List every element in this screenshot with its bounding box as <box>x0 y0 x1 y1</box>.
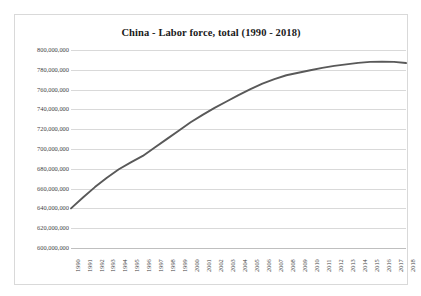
x-tick-label: 1994 <box>121 259 128 272</box>
x-tick-label: 1990 <box>74 259 81 272</box>
x-tick-label: 1999 <box>181 259 188 272</box>
x-tick-label: 2018 <box>409 259 416 272</box>
x-tick-label: 1996 <box>145 259 152 272</box>
x-tick-label: 1998 <box>169 259 176 272</box>
x-tick-label: 2007 <box>277 259 284 272</box>
x-tick-label: 1995 <box>133 259 140 272</box>
x-tick-label: 2014 <box>361 259 368 272</box>
x-tick-label: 2011 <box>325 259 332 272</box>
x-tick-label: 1991 <box>86 259 93 272</box>
x-tick-label: 2000 <box>193 259 200 272</box>
x-tick-label: 1992 <box>98 259 105 272</box>
x-tick-label: 2015 <box>373 259 380 272</box>
x-tick-label: 1993 <box>109 259 116 272</box>
chart-container: China - Labor force, total (1990 - 2018)… <box>14 14 408 285</box>
plot-area: 600,000,000620,000,000640,000,000660,000… <box>15 15 409 286</box>
x-tick-label: 2006 <box>265 259 272 272</box>
x-tick-label: 2013 <box>349 259 356 272</box>
x-tick-label: 1997 <box>157 259 164 272</box>
x-tick-label: 2017 <box>397 259 404 272</box>
x-tick-label: 2012 <box>337 259 344 272</box>
x-tick-label: 2004 <box>241 259 248 272</box>
x-tick-label: 2003 <box>229 259 236 272</box>
x-tick-label: 2005 <box>253 259 260 272</box>
x-axis: 1990199119921993199419951996199719981999… <box>15 15 409 286</box>
x-tick-label: 2002 <box>217 259 224 272</box>
x-tick-label: 2010 <box>313 259 320 272</box>
x-tick-label: 2009 <box>301 259 308 272</box>
x-tick-label: 2016 <box>385 259 392 272</box>
x-tick-label: 2001 <box>205 259 212 272</box>
x-tick-label: 2008 <box>289 259 296 272</box>
